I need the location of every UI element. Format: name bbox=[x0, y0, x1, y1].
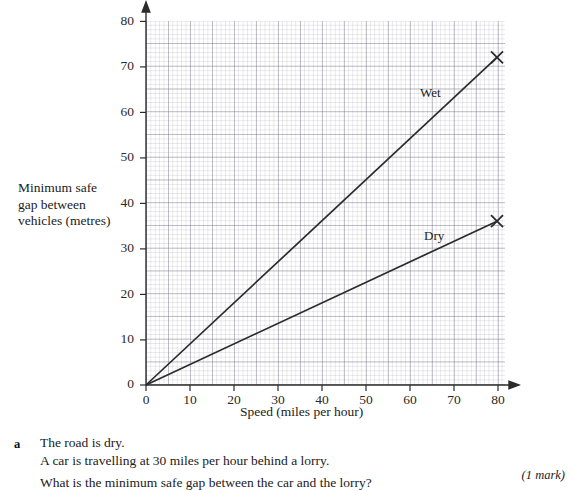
y-axis bbox=[142, 2, 150, 385]
x-tick-label-70: 70 bbox=[437, 392, 471, 408]
y-tick-label-50: 50 bbox=[100, 149, 134, 165]
y-tick-label-20: 20 bbox=[100, 286, 134, 302]
y-axis-label-line-2: gap between bbox=[18, 197, 138, 214]
exam-question-page: 80 70 60 50 40 30 20 10 0 0 10 20 30 40 … bbox=[0, 0, 574, 491]
question-line-2: A car is travelling at 30 miles per hour… bbox=[40, 452, 490, 470]
series-label-dry: Dry bbox=[424, 228, 444, 244]
x-tick-label-0: 0 bbox=[129, 392, 163, 408]
y-tick-label-60: 60 bbox=[100, 104, 134, 120]
y-axis-label: Minimum safe gap between vehicles (metre… bbox=[18, 180, 138, 230]
x-axis bbox=[146, 381, 519, 389]
question-block: a The road is dry. A car is travelling a… bbox=[0, 428, 574, 491]
x-tick-label-60: 60 bbox=[393, 392, 427, 408]
y-tick-label-30: 30 bbox=[100, 240, 134, 256]
y-tick-label-10: 10 bbox=[100, 331, 134, 347]
line-graph: 80 70 60 50 40 30 20 10 0 0 10 20 30 40 … bbox=[0, 0, 574, 425]
question-line-1: The road is dry. bbox=[40, 434, 490, 452]
x-axis-label: Speed (miles per hour) bbox=[240, 404, 363, 420]
y-tick-label-70: 70 bbox=[100, 58, 134, 74]
question-marks: (1 mark) bbox=[522, 468, 565, 483]
y-tick-label-0: 0 bbox=[100, 376, 134, 392]
endpoint-cross-wet bbox=[491, 51, 503, 63]
question-text: The road is dry. A car is travelling at … bbox=[40, 434, 490, 491]
x-tick-label-10: 10 bbox=[173, 392, 207, 408]
series-line-dry bbox=[146, 215, 503, 385]
series-line-wet bbox=[146, 51, 503, 385]
y-axis-label-line-3: vehicles (metres) bbox=[18, 213, 138, 230]
y-tick-label-80: 80 bbox=[100, 13, 134, 29]
series-label-wet: Wet bbox=[420, 85, 441, 101]
endpoint-cross-dry bbox=[491, 215, 503, 227]
y-axis-ticks bbox=[140, 21, 146, 385]
x-tick-label-80: 80 bbox=[481, 392, 515, 408]
x-axis-ticks bbox=[146, 385, 498, 391]
question-letter: a bbox=[14, 437, 20, 452]
y-axis-label-line-1: Minimum safe bbox=[18, 180, 138, 197]
question-line-3: What is the minimum safe gap between the… bbox=[40, 474, 490, 491]
